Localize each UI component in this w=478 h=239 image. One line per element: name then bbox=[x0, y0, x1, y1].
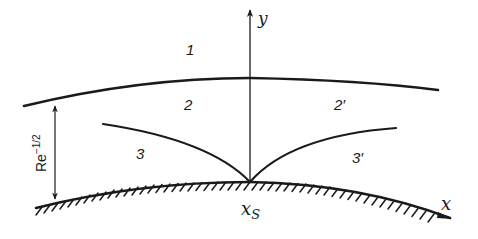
diagram-canvas: y bbox=[0, 0, 478, 239]
region-label-2: 2 bbox=[183, 96, 193, 113]
region-label-2-prime: 2′ bbox=[333, 96, 346, 113]
region-label-3: 3 bbox=[136, 145, 145, 162]
boundary-layer-edge-curve bbox=[24, 78, 438, 106]
y-axis-label: y bbox=[257, 8, 268, 28]
region-label-3-prime: 3′ bbox=[352, 149, 364, 166]
sublayer-curve-right bbox=[250, 128, 396, 182]
sublayer-curve-left bbox=[103, 124, 250, 182]
region-label-1: 1 bbox=[186, 41, 194, 58]
thickness-label: Re−1/2 bbox=[31, 134, 49, 172]
wall-hatching bbox=[36, 182, 434, 222]
separation-point-label: xS bbox=[241, 198, 260, 222]
x-axis-label: x bbox=[441, 193, 451, 214]
